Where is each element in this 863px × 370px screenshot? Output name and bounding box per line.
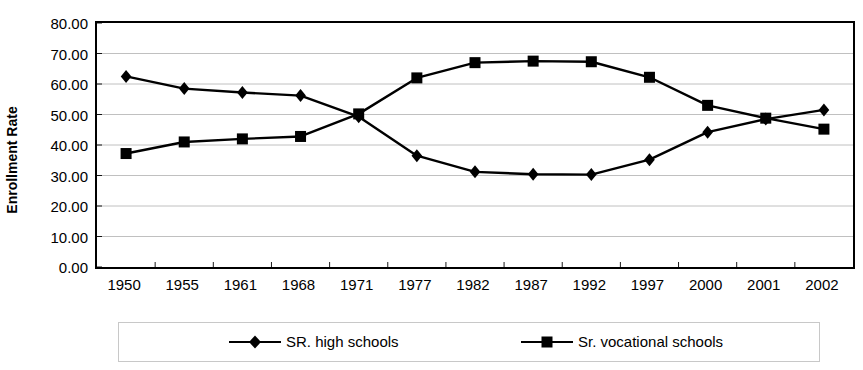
- y-axis-tick-label: 70.00: [50, 46, 88, 61]
- y-axis-title-text: Enrollment Rate: [4, 106, 20, 213]
- x-axis-tick-label: 1997: [631, 276, 664, 294]
- data-point-marker[interactable]: [528, 168, 539, 181]
- x-axis-tick-label: 2001: [747, 276, 780, 294]
- y-axis-tick-label: 10.00: [50, 229, 88, 244]
- data-point-marker[interactable]: [237, 133, 248, 144]
- x-axis-tick-label: 1987: [514, 276, 547, 294]
- data-point-marker[interactable]: [470, 57, 481, 68]
- data-point-marker[interactable]: [295, 131, 306, 142]
- data-point-marker[interactable]: [644, 72, 655, 83]
- x-axis-tick-label: 1977: [398, 276, 431, 294]
- x-axis-tick-label: 1992: [573, 276, 606, 294]
- series-line-0: [126, 76, 824, 174]
- y-axis-tick-label: 20.00: [50, 199, 88, 214]
- series-line-1: [126, 61, 824, 153]
- y-axis-tick-label: 60.00: [50, 77, 88, 92]
- y-axis-tick-label: 50.00: [50, 107, 88, 122]
- y-axis-tick-label: 30.00: [50, 168, 88, 183]
- data-point-marker[interactable]: [760, 113, 771, 124]
- data-point-marker[interactable]: [121, 148, 132, 159]
- chart-figure: Enrollment Rate 0.0010.0020.0030.0040.00…: [0, 0, 863, 370]
- y-axis-tick-label: 40.00: [50, 138, 88, 153]
- x-axis-tick-label: 1968: [282, 276, 315, 294]
- x-axis-tick-label: 2002: [805, 276, 838, 294]
- y-axis-title: Enrollment Rate: [0, 60, 24, 260]
- data-point-marker[interactable]: [295, 89, 306, 102]
- x-axis-tick-label: 1961: [224, 276, 257, 294]
- data-point-marker[interactable]: [586, 168, 597, 181]
- legend-label: SR. high schools: [286, 334, 399, 350]
- data-point-marker[interactable]: [644, 153, 655, 166]
- data-point-marker[interactable]: [586, 56, 597, 67]
- legend-entry-sr-vocational-schools[interactable]: Sr. vocational schools: [519, 333, 723, 351]
- plot-svg: [97, 23, 853, 267]
- data-point-marker[interactable]: [702, 100, 713, 111]
- data-point-marker[interactable]: [470, 165, 481, 178]
- legend-marker-square-icon: [519, 333, 575, 351]
- data-point-marker[interactable]: [179, 136, 190, 147]
- x-axis-tick-label: 2000: [689, 276, 722, 294]
- data-point-marker[interactable]: [121, 70, 132, 83]
- x-axis-tick-labels: 1950195519611968197119771982198719921997…: [95, 276, 855, 302]
- y-axis-tick-label: 80.00: [50, 16, 88, 31]
- data-point-marker[interactable]: [412, 149, 423, 162]
- plot-area: [95, 21, 855, 269]
- y-axis-tick-labels: 0.0010.0020.0030.0040.0050.0060.0070.008…: [22, 0, 94, 300]
- data-point-marker[interactable]: [353, 108, 364, 119]
- x-axis-tick-label: 1982: [456, 276, 489, 294]
- chart-legend: SR. high schools Sr. vocational schools: [118, 322, 820, 362]
- x-axis-tick-label: 1955: [166, 276, 199, 294]
- data-point-marker[interactable]: [702, 126, 713, 139]
- x-axis-tick-label: 1950: [107, 276, 140, 294]
- data-point-marker[interactable]: [528, 56, 539, 67]
- data-point-marker[interactable]: [237, 86, 248, 99]
- x-axis-tick-label: 1971: [340, 276, 373, 294]
- y-axis-tick-label: 0.00: [59, 260, 88, 275]
- data-point-marker[interactable]: [818, 124, 829, 135]
- legend-entry-sr-high-schools[interactable]: SR. high schools: [227, 333, 399, 351]
- legend-label: Sr. vocational schools: [578, 334, 723, 350]
- data-point-marker[interactable]: [411, 72, 422, 83]
- legend-marker-diamond-icon: [227, 333, 283, 351]
